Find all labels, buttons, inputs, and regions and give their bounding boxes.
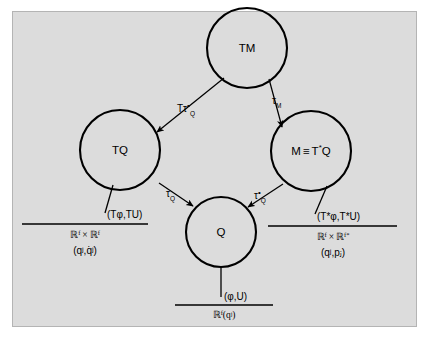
node-label-m: M≡T*Q xyxy=(291,143,330,157)
chart-map-label-q: (φ,U) xyxy=(224,291,247,302)
node-group: TM TQ M≡T*Q Q xyxy=(80,8,351,267)
chart-space-q: ℝf(qʲ) xyxy=(213,309,236,322)
bundle-diagram: Tτ•Q τM τQ τ•Q xyxy=(0,0,430,339)
chart-m: (T*φ,T*U) ℝf×ℝf* (qʲ,pⱼ) xyxy=(317,211,361,258)
chart-map-label-tq: (Tφ,TU) xyxy=(107,209,142,220)
chart-tq: (Tφ,TU) ℝf×ℝf (qʲ,q̇ʲ) xyxy=(70,209,142,256)
chart-coords-tq: (qʲ,q̇ʲ) xyxy=(73,245,97,256)
chart-space-m: ℝf×ℝf* xyxy=(317,231,350,243)
edge-label-tm-to-m: τM xyxy=(272,95,281,109)
chart-map-label-m: (T*φ,T*U) xyxy=(317,211,360,222)
figure-root: Tτ•Q τM τQ τ•Q xyxy=(0,0,430,339)
edge-tm-to-tq xyxy=(157,78,224,132)
edge-tq-to-q xyxy=(159,183,193,206)
node-label-q: Q xyxy=(217,226,226,238)
edge-group xyxy=(157,78,283,207)
node-label-tq: TQ xyxy=(112,144,128,156)
node-label-tm: TM xyxy=(239,42,256,54)
chart-coords-m: (qʲ,pⱼ) xyxy=(321,247,345,258)
edge-label-group: Tτ•Q τM τQ τ•Q xyxy=(166,95,281,205)
chart-space-tq: ℝf×ℝf xyxy=(70,229,101,241)
chart-q: (φ,U) ℝf(qʲ) xyxy=(213,291,248,321)
chart-stem-group xyxy=(105,185,327,297)
